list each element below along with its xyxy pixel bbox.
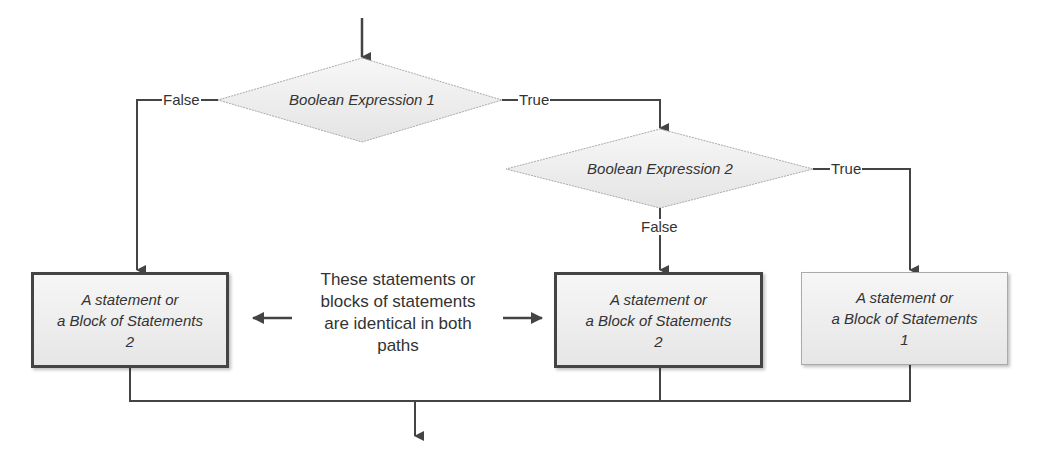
statement-box-2-left: A statement or a Block of Statements 2 [31, 272, 229, 368]
decision-2-true-label: True [830, 161, 862, 177]
decision-1-label: Boolean Expression 1 [250, 91, 474, 108]
decision-2-false-label: False [640, 219, 679, 235]
identical-statements-note: These statements or blocks of statements… [292, 269, 504, 357]
decision-2-label: Boolean Expression 2 [540, 160, 780, 177]
decision-1-false-label: False [162, 92, 201, 108]
statement-box-2-middle: A statement or a Block of Statements 2 [554, 272, 763, 368]
decision-1-true-label: True [518, 92, 550, 108]
statement-box-1-right: A statement or a Block of Statements 1 [801, 272, 1008, 365]
flowchart-connectors [0, 0, 1051, 463]
